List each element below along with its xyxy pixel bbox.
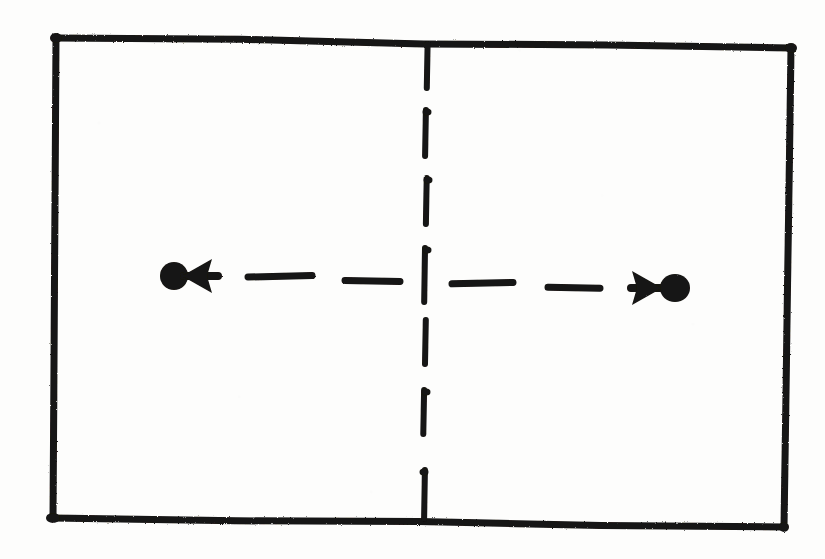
box-edge-right [784, 48, 791, 527]
dash-knot-a [423, 109, 432, 116]
dash-knot-c [423, 247, 432, 254]
box-edge-top [56, 38, 791, 48]
centre-dash-6 [423, 390, 424, 434]
hand-drawn-diagram-canvas [0, 0, 825, 559]
box-edge-left [53, 38, 56, 518]
centre-dash-3 [426, 178, 427, 224]
vertical-dashed-centre-line [420, 44, 433, 519]
dash-knot-e [420, 469, 429, 476]
centre-dash-7 [424, 470, 425, 519]
right-particle [631, 271, 690, 305]
box-edge-bottom [53, 518, 784, 527]
figure-root: Rectangle with dashed vertical centre li… [0, 0, 825, 559]
centre-dash-5 [425, 320, 426, 364]
corner-blob-top-left [50, 33, 62, 43]
motion-dash-1 [248, 276, 312, 277]
motion-dash-2 [345, 280, 400, 281]
dash-knot-d [422, 389, 431, 396]
corner-blob-bottom-left [46, 513, 60, 523]
motion-dash-4 [548, 287, 600, 288]
right-particle-dot [660, 274, 690, 302]
corner-blob-bottom-right [779, 522, 789, 532]
dash-knot-b [424, 177, 433, 184]
motion-dash-3 [452, 282, 513, 283]
centre-dash-1 [427, 44, 428, 88]
left-particle [160, 259, 218, 293]
corner-blob-top-right [785, 43, 797, 53]
centre-dash-4 [424, 248, 425, 302]
centre-dash-2 [425, 110, 426, 156]
